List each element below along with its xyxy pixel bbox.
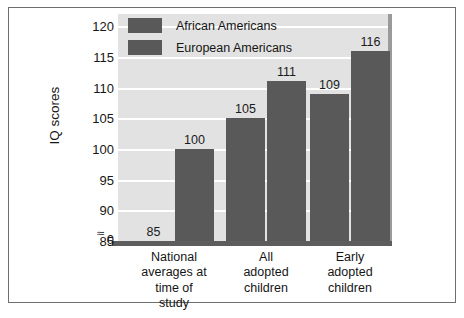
y-axis-tick-label: 120 (70, 20, 114, 33)
y-axis-tick-label: 85 (70, 235, 114, 248)
x-axis-category-label-line: study (119, 296, 229, 311)
bar (175, 149, 214, 241)
bar (226, 118, 265, 241)
y-axis-tick-label: 90 (70, 204, 114, 217)
y-axis-tick-label: 105 (70, 112, 114, 125)
bar-value-label: 111 (243, 66, 330, 79)
x-axis-line (112, 241, 392, 246)
x-axis-category-label-line: children (295, 281, 405, 296)
y-axis-ticks: 0859095100105110115120 (64, 0, 114, 318)
y-axis-title: IQ scores (47, 56, 62, 176)
bar (267, 81, 306, 241)
legend-swatch-icon (128, 40, 162, 55)
legend: African Americans European Americans (128, 18, 328, 62)
legend-swatch-icon (128, 18, 162, 33)
y-axis-tick-label: 100 (70, 142, 114, 155)
y-axis-tick-label: 95 (70, 173, 114, 186)
bar-value-label: 116 (327, 36, 414, 49)
x-axis-category-label-line: adopted (295, 265, 405, 280)
bar-value-label: 100 (151, 134, 238, 147)
x-axis-category-label-line: Early (295, 250, 405, 265)
legend-item: European Americans (128, 40, 328, 55)
legend-item: African Americans (128, 18, 328, 33)
legend-item-label: European Americans (176, 41, 292, 55)
legend-item-label: African Americans (176, 19, 277, 33)
y-axis-tick-label: 115 (70, 50, 114, 63)
bar (351, 51, 390, 241)
figure-container: 85100105111109116 0859095100105110115120… (0, 0, 464, 318)
x-axis-category-label: Earlyadoptedchildren (295, 250, 405, 296)
bar (310, 94, 349, 241)
y-axis-tick-label: 110 (70, 81, 114, 94)
y-axis-break-icon: ≈ (97, 228, 105, 239)
